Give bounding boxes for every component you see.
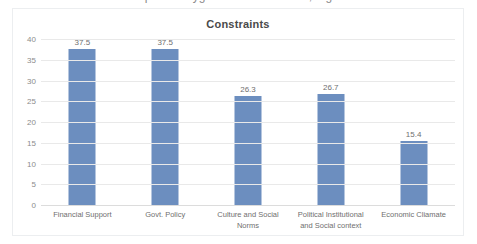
- gridline: [41, 205, 455, 206]
- gridline: [41, 101, 455, 102]
- bar[interactable]: [234, 96, 261, 205]
- clipped-title-text: Impact of Hygiene on Constraints, Fig. 3: [0, 0, 477, 3]
- x-axis-category-label: Govt. Policy: [124, 209, 207, 231]
- bar[interactable]: [152, 49, 179, 205]
- y-axis-tick-label: 25: [27, 97, 36, 106]
- bar[interactable]: [69, 49, 96, 205]
- y-axis-tick-label: 35: [27, 55, 36, 64]
- x-axis-category-label: Financial Support: [41, 209, 124, 231]
- chart-title: Constraints: [13, 18, 463, 30]
- y-axis-tick-label: 15: [27, 138, 36, 147]
- gridline: [41, 184, 455, 185]
- y-axis-tick-label: 5: [32, 180, 36, 189]
- plot-area: 37.537.526.326.715.4 4035302520151050: [41, 39, 455, 205]
- x-axis-category-label: Culture and Social Norms: [207, 209, 290, 231]
- x-axis-category-labels: Financial SupportGovt. PolicyCulture and…: [41, 209, 455, 231]
- bar-value-label: 26.7: [323, 83, 339, 92]
- gridline: [41, 122, 455, 123]
- x-axis-category-label: Economic Cliamate: [372, 209, 455, 231]
- y-axis-tick-label: 30: [27, 76, 36, 85]
- y-axis-tick-label: 40: [27, 35, 36, 44]
- bar-value-label: 15.4: [406, 130, 422, 139]
- gridline: [41, 39, 455, 40]
- y-axis-tick-label: 10: [27, 159, 36, 168]
- gridline: [41, 81, 455, 82]
- y-axis-tick-label: 0: [32, 201, 36, 210]
- bar[interactable]: [317, 94, 344, 205]
- gridline: [41, 60, 455, 61]
- gridline: [41, 143, 455, 144]
- bar-value-label: 26.3: [240, 85, 256, 94]
- x-axis-category-label: Political Institutional and Social conte…: [289, 209, 372, 231]
- bar[interactable]: [400, 141, 427, 205]
- chart-frame: Constraints 37.537.526.326.715.4 4035302…: [12, 8, 464, 236]
- gridline: [41, 164, 455, 165]
- y-axis-tick-label: 20: [27, 118, 36, 127]
- clipped-title-remnant: Impact of Hygiene on Constraints, Fig. 3: [0, 0, 477, 7]
